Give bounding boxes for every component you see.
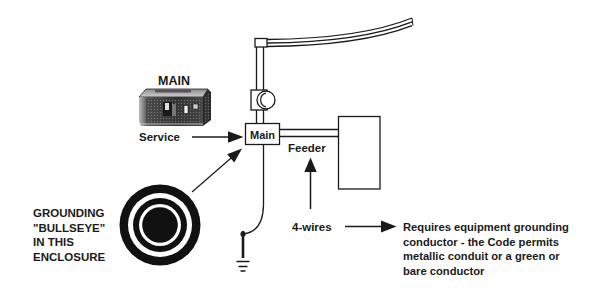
requirement-line: metallic conduit or a green or: [403, 250, 560, 262]
main-breaker-device-icon: MAIN: [139, 74, 211, 126]
service-label: Service: [139, 131, 180, 143]
grounding-electrode-conductor: [240, 145, 263, 237]
bullseye-caption-line: "BULLSEYE": [33, 222, 105, 234]
bullseye-caption: GROUNDING "BULLSEYE" IN THIS ENCLOSURE: [33, 207, 106, 263]
service-conduit: [257, 47, 264, 124]
four-wires-up-arrow-icon: [304, 158, 316, 210]
requirement-line: Requires equipment grounding: [403, 221, 569, 233]
grounding-diagram: Main MAIN Service: [0, 0, 599, 292]
subpanel-enclosure: [339, 117, 381, 190]
main-box-label: Main: [250, 129, 275, 141]
requirement-note: Requires equipment grounding conductor -…: [403, 221, 569, 277]
weatherhead-cap: [255, 39, 267, 48]
bullseye-caption-line: IN THIS: [33, 236, 74, 248]
service-cable: [267, 18, 413, 47]
bullseye-caption-line: ENCLOSURE: [33, 251, 106, 263]
requirement-arrow-icon: [345, 221, 397, 233]
requirement-line: bare conductor: [403, 265, 485, 277]
main-device-label: MAIN: [158, 74, 190, 88]
service-arrow-icon: [192, 131, 244, 142]
requirement-line: conductor - the Code permits: [403, 236, 559, 248]
bullseye-arrow-icon: [192, 149, 242, 193]
ground-rod-icon: [237, 231, 250, 271]
feeder-label: Feeder: [288, 142, 326, 154]
bullseye-caption-line: GROUNDING: [33, 207, 105, 219]
feeder-conduit: [280, 130, 339, 137]
four-wires-label: 4-wires: [292, 221, 332, 233]
main-box: Main: [246, 124, 280, 145]
grounding-bullseye-icon: [120, 185, 201, 266]
meter-fitting: [251, 90, 275, 110]
